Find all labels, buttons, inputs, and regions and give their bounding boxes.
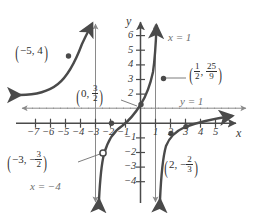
annotation-0-3over2: (0, 32) (75, 84, 104, 105)
annotation-half-25over9: (12, 259) (188, 62, 223, 83)
asymptote-label-x-1: x = 1 (168, 31, 191, 43)
paren-close-icon: ) (194, 161, 198, 176)
y-tick-label-neg2: −2 (124, 146, 136, 157)
paren-close-icon: ) (43, 156, 47, 171)
annotation-neg5-4-y: 4 (37, 44, 43, 56)
x-tick-label-neg4: −4 (72, 126, 84, 137)
y-tick-label-3: 3 (128, 73, 133, 84)
y-tick-label-neg4: −4 (124, 175, 136, 186)
fraction-3-over-2: 32 (35, 150, 42, 169)
fraction-25-over-9: 259 (206, 62, 217, 81)
x-tick-label-neg3: −3 (87, 126, 99, 137)
x-tick-label-neg6: −6 (42, 126, 54, 137)
annotation-neg3-x: −3 (12, 153, 24, 165)
point-half-25over9 (161, 76, 166, 81)
y-tick-label-5: 5 (128, 44, 133, 55)
x-tick-label-3: 3 (183, 126, 188, 137)
y-tick-label-4: 4 (128, 58, 133, 69)
paren-close-icon: ) (218, 68, 222, 83)
x-tick-label-neg5: −5 (57, 126, 69, 137)
annotation-neg3-neg3over2: (−3, −32) (6, 150, 48, 171)
point-neg3-neg3over2-open (100, 150, 106, 156)
asymptote-label-x-neg4: x = −4 (30, 180, 61, 192)
paren-open-icon: ( (189, 68, 193, 83)
y-tick-label-neg1: −1 (124, 131, 136, 142)
point-neg5-4 (66, 53, 71, 58)
x-axis-name: x (236, 126, 241, 141)
fraction-denominator: 2 (92, 94, 99, 103)
x-tick-label-2: 2 (168, 126, 173, 137)
x-tick-label-5: 5 (213, 126, 218, 137)
leader-line-0-3over2 (121, 100, 137, 106)
annotation-2-neg2over3: (2, −23) (163, 155, 199, 176)
asymptote-label-y-1: y = 1 (180, 95, 203, 107)
paren-open-icon: ( (15, 46, 19, 61)
fraction-2-over-3: 23 (186, 155, 193, 174)
paren-open-icon: ( (164, 161, 168, 176)
x-tick-label-1: 1 (153, 126, 158, 137)
x-tick-label-4: 4 (198, 126, 203, 137)
annotation-neg5-4: (−5, 4) (14, 44, 49, 61)
y-tick-label-2: 2 (128, 87, 133, 98)
paren-close-icon: ) (44, 46, 48, 61)
paren-close-icon: ) (100, 90, 104, 105)
fraction-denominator: 3 (186, 165, 193, 174)
y-axis-name: y (126, 14, 131, 29)
x-tick-label-neg2: −2 (102, 126, 114, 137)
y-tick-label-6: 6 (128, 29, 133, 40)
paren-open-icon: ( (7, 156, 11, 171)
fraction-denominator: 2 (35, 160, 42, 169)
graph-figure: y x −7 −6 −5 −4 −3 −2 −1 1 2 3 4 5 6 5 4… (0, 0, 254, 220)
fraction-3-over-2: 32 (92, 84, 99, 103)
point-0-3over2 (138, 102, 143, 107)
paren-open-icon: ( (76, 90, 80, 105)
x-tick-label-neg7: −7 (27, 126, 39, 137)
annotation-neg5-4-x: −5 (20, 44, 32, 56)
fraction-denominator: 9 (206, 72, 217, 81)
y-tick-label-neg3: −3 (124, 160, 136, 171)
leader-line-neg3-neg3over2 (78, 154, 100, 162)
